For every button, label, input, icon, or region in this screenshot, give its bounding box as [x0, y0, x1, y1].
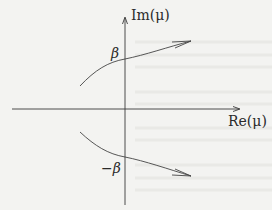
- diagram-canvas: [0, 0, 272, 210]
- negative-beta-marker-label: −β: [101, 161, 121, 175]
- beta-marker-label: β: [111, 46, 119, 60]
- imaginary-axis: [123, 17, 128, 205]
- real-axis-label: Re(μ): [228, 114, 267, 128]
- complex-plane-figure: Im(μ) Re(μ) β −β: [0, 0, 272, 210]
- imaginary-axis-label: Im(μ): [131, 8, 170, 22]
- upper-branch-curve: [80, 41, 191, 86]
- real-axis: [12, 107, 240, 112]
